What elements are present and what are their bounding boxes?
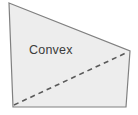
convex-polygon-figure: Convex [0,0,138,115]
figure-canvas: Convex [0,0,138,115]
convex-label: Convex [29,43,73,57]
